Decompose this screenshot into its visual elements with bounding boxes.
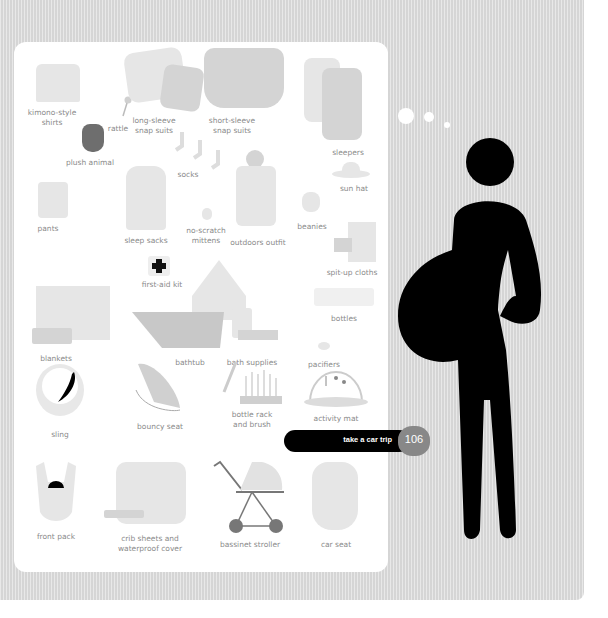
bouncy-seat-icon [134, 360, 184, 414]
short-sleeve-snap-suits-icon [204, 48, 284, 108]
pregnant-woman-figure-icon [396, 130, 546, 550]
socks-icon [174, 130, 226, 172]
snap-suit-shape [159, 63, 205, 112]
label-bassinet-stroller: bassinet stroller [220, 540, 280, 550]
sling-icon [34, 360, 90, 418]
label-beanies: beanies [297, 222, 326, 232]
label-sleepers: sleepers [332, 148, 364, 158]
label-front-pack: front pack [37, 532, 75, 542]
label-bottle-rack-and-brush: bottle rack and brush [232, 410, 272, 430]
label-pants: pants [38, 224, 59, 234]
bathtub-icon [132, 312, 224, 350]
label-car-seat: car seat [321, 540, 351, 550]
bassinet-stroller-icon [212, 460, 288, 538]
blanket-stack [32, 328, 72, 344]
label-kimono-style-shirts: kimono-style shirts [28, 108, 77, 128]
take-a-car-trip-link[interactable]: take a car trip [284, 430, 410, 452]
thought-bubble-small [444, 122, 450, 128]
front-pack-icon [36, 462, 76, 524]
take-a-car-trip-label: take a car trip [343, 435, 392, 444]
label-sleep-sacks: sleep sacks [124, 236, 167, 246]
thought-bubble-medium [424, 112, 434, 122]
beanies-icon [302, 192, 320, 212]
sleep-sacks-icon [126, 166, 166, 230]
spit-up-cloths-icon [348, 222, 376, 262]
label-bouncy-seat: bouncy seat [137, 422, 183, 432]
label-socks: socks [178, 170, 199, 180]
bath-supplies-tray [238, 330, 278, 340]
bottles-icon [314, 288, 374, 306]
plush-animal-icon [82, 124, 104, 152]
bottle-rack-icon [222, 362, 284, 408]
label-no-scratch-mittens: no-scratch mittens [186, 226, 226, 246]
label-rattle: rattle [108, 124, 128, 134]
kimono-shirts-icon [36, 64, 80, 102]
sleeper-shape [322, 68, 362, 140]
label-bottles: bottles [331, 314, 357, 324]
no-scratch-mittens-icon [202, 208, 212, 220]
activity-mat-icon [304, 366, 368, 406]
label-crib-sheets: crib sheets and waterproof cover [118, 534, 182, 554]
sun-hat-crown [342, 162, 360, 174]
outdoors-outfit-body [236, 166, 276, 226]
thought-bubble-large [398, 108, 414, 124]
pants-icon [38, 182, 68, 218]
car-seat-icon [312, 462, 358, 530]
first-aid-kit-icon [148, 256, 170, 276]
page-number: 106 [398, 433, 430, 445]
label-first-aid-kit: first-aid kit [142, 280, 183, 290]
label-long-sleeve-snap-suits: long-sleeve snap suits [132, 116, 175, 136]
label-sun-hat: sun hat [340, 184, 368, 194]
label-sling: sling [51, 430, 69, 440]
label-spit-up-cloths: spit-up cloths [327, 268, 378, 278]
pacifiers-icon [318, 342, 330, 350]
crib-sheet-stack [104, 510, 144, 518]
label-plush-animal: plush animal [66, 158, 114, 168]
label-activity-mat: activity mat [314, 414, 359, 424]
baby-items-panel: kimono-style shirts rattle long-sleeve s… [14, 42, 388, 572]
page-number-badge[interactable]: 106 [398, 426, 430, 456]
label-outdoors-outfit: outdoors outfit [230, 238, 286, 248]
spit-up-cloth-stack [334, 238, 352, 252]
